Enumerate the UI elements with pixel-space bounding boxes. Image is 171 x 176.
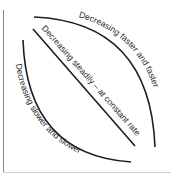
diagram-svg: Decreasing faster and faster Decreasing …	[0, 0, 171, 176]
decrease-rate-diagram: Decreasing faster and faster Decreasing …	[0, 0, 171, 176]
label-slower-and-slower: Decreasing slower and slower	[14, 63, 83, 156]
